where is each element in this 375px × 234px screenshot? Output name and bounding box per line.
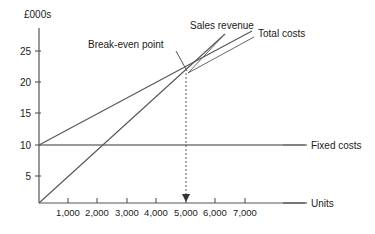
total-costs-leader-line (188, 37, 254, 73)
x-axis-title: Units (311, 198, 334, 209)
y-tick-label-25: 25 (20, 46, 32, 57)
break-even-arrow-icon (182, 194, 190, 202)
break-even-leader-line (176, 51, 187, 71)
series-label-fixed-costs: Fixed costs (311, 140, 362, 151)
y-tick-label-10: 10 (20, 140, 32, 151)
x-tick-label-2000: 2,000 (85, 207, 109, 218)
annotation-break-even-point: Break-even point (88, 39, 164, 50)
y-axis-title: £000s (24, 9, 51, 20)
chart-canvas: 25 20 15 10 5 1,000 2,000 3,000 4,000 5,… (0, 0, 375, 234)
y-tick-label-15: 15 (20, 108, 32, 119)
x-tick-label-6000: 6,000 (203, 207, 227, 218)
x-tick-label-3000: 3,000 (115, 207, 139, 218)
x-tick-label-1000: 1,000 (56, 207, 80, 218)
sales-revenue-leader-line (188, 37, 222, 73)
series-line-sales-revenue (39, 34, 225, 203)
break-even-chart: 25 20 15 10 5 1,000 2,000 3,000 4,000 5,… (0, 0, 375, 234)
series-label-sales-revenue: Sales revenue (190, 20, 254, 31)
x-tick-label-5000: 5,000 (174, 207, 198, 218)
y-tick-label-20: 20 (20, 77, 32, 88)
series-label-total-costs: Total costs (258, 28, 305, 39)
y-tick-label-5: 5 (25, 171, 31, 182)
x-tick-label-4000: 4,000 (144, 207, 168, 218)
x-tick-label-7000: 7,000 (233, 207, 257, 218)
